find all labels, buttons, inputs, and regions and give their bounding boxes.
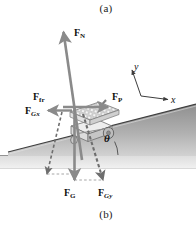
label-gravity-x-subscript: Gx [31,110,40,118]
coordinate-axes [132,70,168,100]
label-gravity-y-component: FGy [98,188,112,198]
label-friction-force-subscript: fr [39,96,44,104]
label-gravity-y-subscript: Gy [104,192,112,200]
angle-theta-label: θ [104,133,110,144]
caption-b: (b) [0,208,196,220]
label-push-force-subscript: P [118,96,122,104]
label-gravity-force-subscript: G [70,192,75,200]
label-normal-force: FN [74,28,85,38]
label-gravity-x-component: FGx [25,106,40,116]
label-normal-force-subscript: N [80,32,85,40]
y-axis-label: y [134,62,138,72]
x-axis-label: x [171,95,175,105]
label-gravity-force: FG [64,188,76,198]
label-push-force: FP [112,92,122,102]
caption-a: (a) [0,2,196,14]
label-friction-force: Ffr [33,92,45,102]
physics-free-body-diagram: (a) (b) FN Ffr FGx FP FG FGy y x θ [0,0,196,227]
